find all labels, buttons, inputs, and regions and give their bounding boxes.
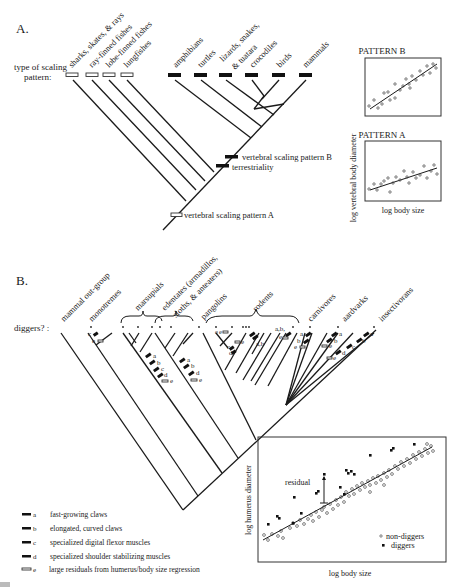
inset-y-axis-label: log vertebral body diameter	[349, 133, 358, 222]
inset-x-axis-label: log body size	[382, 206, 425, 215]
svg-text:a,b: a,b	[256, 340, 265, 348]
taxon-birds: birds	[274, 50, 293, 69]
event-terrestriality-label: terrestriality	[232, 162, 274, 172]
pattern-b-bar	[245, 73, 258, 77]
svg-text:e: e	[241, 338, 244, 346]
pattern-a-bar	[66, 73, 78, 77]
pattern-b-inset: PATTERN B	[359, 46, 441, 116]
scaling-row-label-2: pattern:	[24, 72, 52, 82]
pattern-a-bar	[121, 73, 133, 77]
svg-text:e: e	[199, 376, 202, 384]
panel-a-taxon-labels: sharks, skates, & rays ray-finned fishes…	[66, 10, 330, 71]
svg-text:e: e	[215, 328, 218, 335]
taxon-carnivores: carnivores	[305, 291, 337, 323]
humerus-scatterplot: residual non-diggers diggers	[258, 437, 446, 562]
legend-diggers: diggers	[391, 541, 415, 550]
svg-text:d: d	[342, 349, 346, 357]
svg-text:a: a	[339, 330, 343, 338]
panel-b-label: B.	[16, 273, 28, 288]
humerus-x-axis-label: log body size	[329, 569, 372, 578]
legend-d: specialized shoulder stabilizing muscles	[50, 552, 170, 561]
svg-text:d: d	[33, 553, 37, 561]
legend-e: large residuals from humerus/body size r…	[49, 565, 200, 574]
panel-a-label: A.	[16, 21, 29, 36]
humerus-y-axis-label: log humerus diameter	[244, 465, 253, 535]
pattern-b-bar	[194, 73, 207, 77]
pattern-b-bar	[299, 73, 312, 77]
taxon-insectivorans: insectivorans	[376, 285, 415, 324]
pattern-a-inset: PATTERN A	[359, 130, 441, 201]
svg-text:b: b	[334, 337, 338, 345]
svg-text:b: b	[191, 362, 195, 370]
diggers-row-label: diggers? :	[14, 323, 49, 333]
svg-text:e: e	[329, 342, 332, 350]
pattern-b-title: PATTERN B	[359, 46, 406, 56]
pattern-a-bar	[86, 73, 98, 77]
svg-text:a,b,: a,b,	[275, 325, 285, 333]
legend-b: elongated, curved claws	[50, 524, 122, 533]
taxon-turtles: turtles	[195, 47, 217, 69]
taxon-mammals: mammals	[300, 39, 330, 69]
pattern-bars	[66, 73, 312, 77]
svg-text:c: c	[352, 343, 355, 351]
svg-text:c: c	[33, 539, 36, 547]
svg-text:d: d	[164, 371, 168, 379]
svg-text:e: e	[294, 343, 297, 351]
svg-text:b: b	[33, 525, 37, 533]
svg-text:e: e	[279, 333, 282, 341]
legend-a: fast-growing claws	[50, 510, 107, 519]
pattern-b-bar	[272, 73, 285, 77]
scaling-row-label-1: type of scaling	[14, 62, 67, 72]
svg-text:a: a	[33, 511, 37, 519]
digger-dots	[90, 326, 375, 328]
svg-text:b: b	[297, 337, 301, 345]
pattern-b-bar	[168, 73, 181, 77]
residual-annotation: residual	[285, 478, 311, 487]
svg-text:b: b	[362, 337, 366, 345]
pattern-a-title: PATTERN A	[359, 130, 406, 140]
legend-c: specialized digital flexor muscles	[50, 538, 150, 547]
caption-fragment	[0, 582, 10, 587]
svg-text:e: e	[92, 337, 95, 345]
pattern-b-bar	[219, 73, 232, 77]
svg-text:d: d	[229, 349, 233, 357]
panel-b-taxon-labels: mammal out-group monotremes marsupials e…	[58, 253, 415, 324]
svg-text:e: e	[333, 354, 336, 362]
terrestriality-event-mark	[216, 164, 229, 168]
pattern-a-event-mark	[171, 213, 182, 217]
svg-text:e: e	[170, 377, 173, 385]
legend-non-diggers: non-diggers	[386, 532, 424, 541]
svg-text:e: e	[33, 566, 36, 574]
taxon-aardvarks: aardvarks	[339, 293, 369, 323]
event-pattern-a-label: vertebral scaling pattern A	[184, 210, 275, 220]
svg-text:c: c	[88, 330, 91, 338]
pattern-b-event-mark	[225, 155, 238, 159]
pattern-a-bar	[103, 73, 115, 77]
event-pattern-b-label: vertebral scaling pattern B	[242, 152, 332, 162]
figure-canvas: A. type of scaling pattern: sharks, skat…	[0, 0, 452, 587]
svg-text:e: e	[219, 328, 222, 335]
taxon-mammal-outgroup: mammal out-group	[58, 270, 111, 323]
taxon-rodents: rodents	[250, 289, 275, 314]
character-legend: a fast-growing claws b elongated, curved…	[22, 510, 200, 574]
